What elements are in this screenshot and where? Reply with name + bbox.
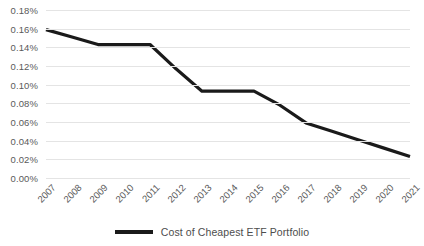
y-tick-label: 0.12%: [11, 61, 38, 72]
gridline: [46, 122, 410, 123]
gridline: [46, 66, 410, 67]
x-tick-label: 2013: [182, 182, 214, 214]
x-tick-label: 2011: [130, 182, 162, 214]
y-axis: 0.18%0.16%0.14%0.12%0.10%0.08%0.06%0.04%…: [0, 0, 44, 188]
series-line-cost-of-cheapest-etf-portfolio: [46, 10, 410, 178]
x-tick-label: 2019: [338, 182, 370, 214]
gridline: [46, 178, 410, 179]
gridline: [46, 29, 410, 30]
x-tick-label: 2014: [208, 182, 240, 214]
gridline: [46, 85, 410, 86]
chart-container: 0.18%0.16%0.14%0.12%0.10%0.08%0.06%0.04%…: [0, 0, 424, 246]
gridline: [46, 159, 410, 160]
legend-swatch-cost-of-cheapest-etf-portfolio: [115, 230, 153, 234]
y-tick-label: 0.14%: [11, 42, 38, 53]
x-tick-label: 2012: [156, 182, 188, 214]
x-tick-label: 2021: [390, 182, 422, 214]
y-tick-label: 0.00%: [11, 173, 38, 184]
gridline: [46, 103, 410, 104]
y-tick-label: 0.06%: [11, 117, 38, 128]
x-tick-label: 2010: [104, 182, 136, 214]
x-axis: 2007200820092010201120122013201420152016…: [46, 180, 410, 224]
plot-area: [46, 10, 410, 178]
y-tick-label: 0.16%: [11, 23, 38, 34]
x-tick-label: 2009: [78, 182, 110, 214]
x-tick-label: 2008: [52, 182, 84, 214]
gridline: [46, 141, 410, 142]
y-tick-label: 0.10%: [11, 79, 38, 90]
x-tick-label: 2018: [312, 182, 344, 214]
gridline: [46, 10, 410, 11]
gridline: [46, 47, 410, 48]
y-tick-label: 0.18%: [11, 5, 38, 16]
legend-label-cost-of-cheapest-etf-portfolio: Cost of Cheapest ETF Portfolio: [161, 226, 309, 238]
y-tick-label: 0.08%: [11, 98, 38, 109]
y-tick-label: 0.02%: [11, 154, 38, 165]
x-tick-label: 2020: [364, 182, 396, 214]
chart-legend: Cost of Cheapest ETF Portfolio: [0, 226, 424, 238]
x-tick-label: 2016: [260, 182, 292, 214]
x-tick-label: 2015: [234, 182, 266, 214]
x-tick-label: 2017: [286, 182, 318, 214]
y-tick-label: 0.04%: [11, 135, 38, 146]
